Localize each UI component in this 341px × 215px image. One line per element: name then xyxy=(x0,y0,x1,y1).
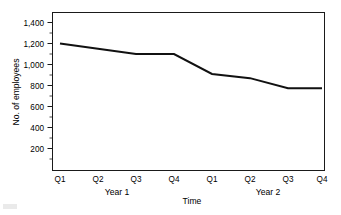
y-axis-title: No. of employees xyxy=(11,59,21,126)
y-axis-major-ticks xyxy=(48,23,53,149)
x-tick-label-y1q2: Q2 xyxy=(93,175,104,184)
group-label-year-1: Year 1 xyxy=(105,187,130,197)
x-tick-label-y1q3: Q3 xyxy=(131,175,142,184)
x-tick-label-y1q1: Q1 xyxy=(55,175,66,184)
x-axis-title: Time xyxy=(183,196,202,206)
y-tick-label-400: 400 xyxy=(30,124,44,133)
x-tick-label-y2q4: Q4 xyxy=(317,175,328,184)
x-tick-label-y1q4: Q4 xyxy=(169,175,180,184)
chart-figure: 1,400 1,200 1,000 800 600 400 200 No. of… xyxy=(0,0,341,215)
x-tick-label-y2q2: Q2 xyxy=(245,175,256,184)
y-tick-label-1200: 1,200 xyxy=(24,40,45,49)
employees-line-chart: 1,400 1,200 1,000 800 600 400 200 No. of… xyxy=(0,0,341,215)
y-tick-label-600: 600 xyxy=(30,103,44,112)
plot-frame xyxy=(53,13,325,171)
y-tick-label-200: 200 xyxy=(30,145,44,154)
group-label-year-2: Year 2 xyxy=(256,187,281,197)
data-series-line xyxy=(60,44,322,89)
x-tick-label-y2q1: Q1 xyxy=(207,175,218,184)
y-tick-label-1000: 1,000 xyxy=(24,61,45,70)
y-tick-label-1400: 1,400 xyxy=(24,19,45,28)
scan-artifact xyxy=(3,204,17,209)
y-tick-label-800: 800 xyxy=(30,82,44,91)
x-tick-label-y2q3: Q3 xyxy=(283,175,294,184)
